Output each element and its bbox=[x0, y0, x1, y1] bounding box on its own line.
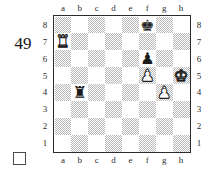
square-c1[interactable] bbox=[88, 135, 105, 152]
file-label-bottom-d: d bbox=[105, 155, 122, 165]
side-to-move-marker bbox=[13, 152, 26, 165]
rank-label-left-6: 6 bbox=[40, 50, 50, 67]
black-pawn-f6[interactable]: ♟ bbox=[139, 50, 156, 67]
square-d1[interactable] bbox=[105, 135, 122, 152]
file-label-top-a: a bbox=[55, 3, 72, 13]
rank-label-right-7: 7 bbox=[194, 33, 204, 50]
square-e7[interactable] bbox=[122, 33, 139, 50]
rank-label-right-6: 6 bbox=[194, 50, 204, 67]
rank-label-left-3: 3 bbox=[40, 101, 50, 118]
square-d8[interactable] bbox=[105, 17, 122, 34]
square-d7[interactable] bbox=[105, 33, 122, 50]
file-label-top-h: h bbox=[173, 3, 190, 13]
square-h3[interactable] bbox=[173, 101, 190, 118]
rank-label-left-2: 2 bbox=[40, 118, 50, 135]
chess-board[interactable]: ♚♜♟♟♚♜♟ abcdefghabcdefgh8765432187654321 bbox=[53, 15, 191, 153]
rank-label-right-5: 5 bbox=[194, 67, 204, 84]
file-label-top-d: d bbox=[105, 3, 122, 13]
file-label-top-c: c bbox=[88, 3, 105, 13]
rank-label-right-8: 8 bbox=[194, 17, 204, 34]
black-rook-b4[interactable]: ♜ bbox=[71, 84, 88, 101]
white-pawn-f5[interactable]: ♟ bbox=[139, 67, 156, 84]
square-f1[interactable] bbox=[139, 135, 156, 152]
square-g5[interactable] bbox=[156, 67, 173, 84]
white-pawn-glyph: ♟ bbox=[156, 84, 173, 101]
square-h7[interactable] bbox=[173, 33, 190, 50]
square-h4[interactable] bbox=[173, 84, 190, 101]
white-king-h5[interactable]: ♚ bbox=[173, 67, 190, 84]
square-a6[interactable] bbox=[55, 50, 72, 67]
rank-label-left-1: 1 bbox=[40, 135, 50, 152]
square-b5[interactable] bbox=[71, 67, 88, 84]
square-a3[interactable] bbox=[55, 101, 72, 118]
square-f3[interactable] bbox=[139, 101, 156, 118]
square-c4[interactable] bbox=[88, 84, 105, 101]
square-d3[interactable] bbox=[105, 101, 122, 118]
square-h1[interactable] bbox=[173, 135, 190, 152]
file-label-top-e: e bbox=[122, 3, 139, 13]
file-label-bottom-a: a bbox=[55, 155, 72, 165]
square-d6[interactable] bbox=[105, 50, 122, 67]
file-label-bottom-h: h bbox=[173, 155, 190, 165]
square-e8[interactable] bbox=[122, 17, 139, 34]
square-d4[interactable] bbox=[105, 84, 122, 101]
file-label-bottom-b: b bbox=[71, 155, 88, 165]
square-f4[interactable] bbox=[139, 84, 156, 101]
square-c2[interactable] bbox=[88, 118, 105, 135]
black-king-f8[interactable]: ♚ bbox=[139, 17, 156, 34]
square-h2[interactable] bbox=[173, 118, 190, 135]
white-rook-glyph: ♜ bbox=[55, 33, 72, 50]
file-label-bottom-f: f bbox=[139, 155, 156, 165]
square-e5[interactable] bbox=[122, 67, 139, 84]
square-g6[interactable] bbox=[156, 50, 173, 67]
square-e4[interactable] bbox=[122, 84, 139, 101]
white-rook-a7[interactable]: ♜ bbox=[55, 33, 72, 50]
square-b8[interactable] bbox=[71, 17, 88, 34]
rank-label-right-2: 2 bbox=[194, 118, 204, 135]
square-f7[interactable] bbox=[139, 33, 156, 50]
square-d5[interactable] bbox=[105, 67, 122, 84]
rank-label-left-5: 5 bbox=[40, 67, 50, 84]
square-b6[interactable] bbox=[71, 50, 88, 67]
square-h6[interactable] bbox=[173, 50, 190, 67]
square-g3[interactable] bbox=[156, 101, 173, 118]
square-b7[interactable] bbox=[71, 33, 88, 50]
square-e1[interactable] bbox=[122, 135, 139, 152]
square-g7[interactable] bbox=[156, 33, 173, 50]
square-c3[interactable] bbox=[88, 101, 105, 118]
square-g1[interactable] bbox=[156, 135, 173, 152]
square-d2[interactable] bbox=[105, 118, 122, 135]
square-a5[interactable] bbox=[55, 67, 72, 84]
square-c5[interactable] bbox=[88, 67, 105, 84]
file-label-bottom-g: g bbox=[156, 155, 173, 165]
square-f2[interactable] bbox=[139, 118, 156, 135]
rank-label-right-1: 1 bbox=[194, 135, 204, 152]
square-g2[interactable] bbox=[156, 118, 173, 135]
square-b2[interactable] bbox=[71, 118, 88, 135]
square-a4[interactable] bbox=[55, 84, 72, 101]
rank-label-left-8: 8 bbox=[40, 17, 50, 34]
square-b3[interactable] bbox=[71, 101, 88, 118]
square-a2[interactable] bbox=[55, 118, 72, 135]
file-label-bottom-c: c bbox=[88, 155, 105, 165]
square-c8[interactable] bbox=[88, 17, 105, 34]
square-e6[interactable] bbox=[122, 50, 139, 67]
square-c6[interactable] bbox=[88, 50, 105, 67]
square-c7[interactable] bbox=[88, 33, 105, 50]
square-e2[interactable] bbox=[122, 118, 139, 135]
file-label-bottom-e: e bbox=[122, 155, 139, 165]
file-label-top-b: b bbox=[71, 3, 88, 13]
rank-label-right-4: 4 bbox=[194, 84, 204, 101]
white-pawn-g4[interactable]: ♟ bbox=[156, 84, 173, 101]
square-e3[interactable] bbox=[122, 101, 139, 118]
file-label-top-f: f bbox=[139, 3, 156, 13]
file-label-top-g: g bbox=[156, 3, 173, 13]
rank-label-right-3: 3 bbox=[194, 101, 204, 118]
square-a1[interactable] bbox=[55, 135, 72, 152]
rank-label-left-7: 7 bbox=[40, 33, 50, 50]
square-b1[interactable] bbox=[71, 135, 88, 152]
square-g8[interactable] bbox=[156, 17, 173, 34]
square-h8[interactable] bbox=[173, 17, 190, 34]
rank-label-left-4: 4 bbox=[40, 84, 50, 101]
square-a8[interactable] bbox=[55, 17, 72, 34]
